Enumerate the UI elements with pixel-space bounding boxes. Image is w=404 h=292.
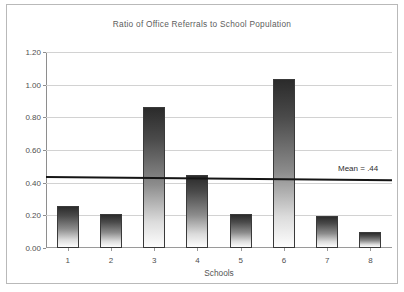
bar[interactable] [359,232,381,248]
y-tick-label: 0.00 [25,244,41,253]
bar[interactable] [230,214,252,248]
x-tick-mark [197,248,198,251]
bar[interactable] [273,79,295,248]
chart-frame: Ratio of Office Referrals to School Popu… [6,4,398,284]
x-tick-mark [284,248,285,251]
mean-reference-label: Mean = .44 [338,164,378,173]
x-axis-title: Schools [46,268,392,278]
bar-slot: 6 [262,52,305,248]
y-tick-label: 0.60 [25,146,41,155]
bar[interactable] [186,175,208,248]
x-tick-label: 7 [325,256,329,265]
bar[interactable] [57,206,79,248]
x-tick-mark [68,248,69,251]
bar-slot: 1 [46,52,89,248]
x-tick-label: 8 [368,256,372,265]
x-tick-mark [241,248,242,251]
y-tick-label: 1.00 [25,80,41,89]
x-tick-label: 1 [65,256,69,265]
x-tick-label: 5 [238,256,242,265]
x-tick-mark [370,248,371,251]
y-tick-mark [43,248,46,249]
bars-group: 12345678 [46,52,392,248]
x-tick-mark [154,248,155,251]
y-tick-label: 0.80 [25,113,41,122]
y-tick-label: 0.20 [25,211,41,220]
x-tick-mark [327,248,328,251]
bar[interactable] [316,216,338,248]
bar-slot: 2 [89,52,132,248]
x-tick-mark [111,248,112,251]
x-tick-label: 3 [152,256,156,265]
bar-slot: 4 [176,52,219,248]
bar-slot: 5 [219,52,262,248]
bar-slot: 3 [133,52,176,248]
x-tick-label: 6 [282,256,286,265]
chart-title: Ratio of Office Referrals to School Popu… [7,19,397,29]
bar[interactable] [100,214,122,248]
y-tick-label: 1.20 [25,48,41,57]
x-tick-label: 2 [109,256,113,265]
x-tick-label: 4 [195,256,199,265]
bar-slot: 7 [306,52,349,248]
y-tick-label: 0.40 [25,178,41,187]
plot-area: 0.000.200.400.600.801.001.20 12345678 Me… [46,52,392,248]
bar-slot: 8 [349,52,392,248]
